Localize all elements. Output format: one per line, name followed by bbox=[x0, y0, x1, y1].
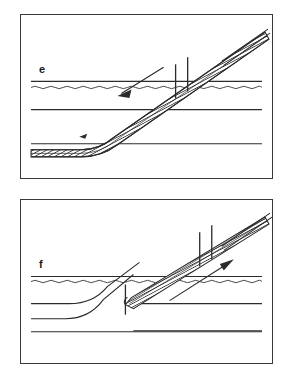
panel-label-e: e bbox=[39, 63, 45, 75]
figure-root: e bbox=[0, 0, 293, 376]
device-sheath-e bbox=[31, 32, 269, 157]
tissue-plane-wavy-f bbox=[31, 280, 262, 282]
retraction-arrow-e bbox=[117, 67, 163, 98]
tissue-plane-wavy-e bbox=[31, 86, 262, 88]
panel-f-illustration: f bbox=[21, 200, 272, 363]
panel-label-f: f bbox=[39, 258, 43, 270]
tissue-plane-group-e bbox=[31, 81, 262, 143]
panel-f: f bbox=[20, 199, 273, 364]
panel-e: e bbox=[20, 14, 273, 179]
device-sheath-f bbox=[124, 217, 269, 309]
entry-tick-e bbox=[79, 134, 87, 139]
panel-e-illustration: e bbox=[21, 15, 272, 178]
